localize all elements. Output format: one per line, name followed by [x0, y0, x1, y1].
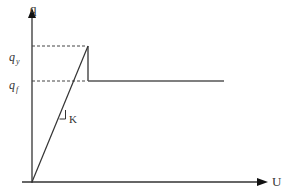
- force-displacement-diagram: q U qy qf K: [0, 0, 294, 188]
- x-axis-arrow-icon: [257, 178, 268, 186]
- elastic-branch-line: [32, 46, 88, 182]
- qf-label: qf: [9, 78, 20, 94]
- y-axis-label: q: [30, 1, 37, 16]
- qy-label: qy: [9, 50, 20, 66]
- x-axis-label: U: [272, 174, 282, 188]
- slope-label: K: [69, 113, 77, 125]
